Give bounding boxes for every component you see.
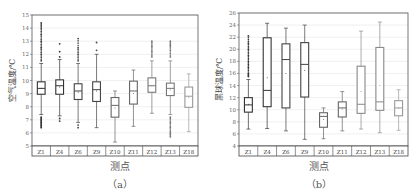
outlier-point bbox=[40, 55, 42, 57]
outlier-point bbox=[40, 39, 42, 41]
outlier-point bbox=[77, 40, 79, 42]
mean-marker bbox=[361, 91, 362, 92]
outlier-point bbox=[248, 58, 250, 60]
outlier-point bbox=[248, 39, 250, 41]
outlier-point bbox=[77, 58, 79, 60]
y-tick-label: 12 bbox=[229, 95, 236, 101]
outlier-point bbox=[40, 44, 42, 46]
outlier-point bbox=[40, 58, 42, 60]
y-tick-label: 10 bbox=[22, 78, 29, 84]
outlier-point bbox=[247, 54, 249, 56]
outlier-point bbox=[59, 56, 61, 58]
outlier-point bbox=[248, 65, 250, 67]
outlier-point bbox=[170, 46, 172, 48]
mean-marker bbox=[115, 108, 116, 109]
mean-marker bbox=[96, 90, 97, 91]
category-label: Z1 bbox=[245, 149, 252, 155]
outlier-point bbox=[248, 73, 250, 75]
y-tick-label: 14 bbox=[229, 83, 236, 89]
y-tick-label: 13 bbox=[22, 38, 29, 44]
outlier-point bbox=[151, 47, 153, 49]
mean-marker bbox=[379, 85, 380, 86]
outlier-point bbox=[59, 118, 61, 120]
outlier-point bbox=[77, 42, 79, 44]
outlier-point bbox=[77, 60, 79, 62]
outlier-point bbox=[248, 50, 250, 52]
outlier-point bbox=[77, 53, 79, 55]
mean-marker bbox=[323, 119, 324, 120]
outlier-point bbox=[170, 41, 172, 43]
outlier-point bbox=[77, 124, 79, 126]
y-tick-label: 6 bbox=[233, 131, 237, 137]
outlier-point bbox=[40, 40, 42, 42]
outlier-point bbox=[40, 34, 42, 36]
outlier-point bbox=[40, 47, 42, 49]
outlier-point bbox=[247, 67, 249, 69]
y-tick-label: 26 bbox=[229, 10, 236, 16]
mean-marker bbox=[151, 85, 152, 86]
outlier-point bbox=[248, 56, 250, 58]
outlier-point bbox=[77, 47, 79, 49]
iqr-box bbox=[74, 84, 82, 100]
panel-b-caption: （b） bbox=[284, 176, 354, 191]
iqr-box bbox=[301, 43, 309, 97]
category-label: Z4 bbox=[264, 149, 272, 155]
category-label: Z4 bbox=[56, 149, 64, 155]
outlier-point bbox=[248, 53, 250, 55]
outlier-point bbox=[40, 126, 42, 128]
mean-marker bbox=[59, 87, 60, 88]
y-tick-label: 14 bbox=[22, 25, 29, 31]
outlier-point bbox=[40, 35, 42, 37]
category-label: Z10 bbox=[318, 149, 329, 155]
y-tick-label: 20 bbox=[229, 46, 236, 52]
outlier-point bbox=[77, 49, 79, 51]
category-label: Z9 bbox=[301, 149, 309, 155]
outlier-point bbox=[151, 52, 153, 54]
outlier-point bbox=[40, 29, 42, 31]
outlier-point bbox=[59, 120, 61, 122]
outlier-point bbox=[247, 48, 249, 50]
category-label: Z11 bbox=[337, 149, 348, 155]
outlier-point bbox=[40, 60, 42, 62]
y-tick-label: 8 bbox=[26, 104, 30, 110]
y-tick-label: 11 bbox=[22, 64, 29, 70]
outlier-point bbox=[248, 59, 250, 61]
outlier-point bbox=[247, 60, 249, 62]
outlier-point bbox=[248, 62, 250, 64]
outlier-point bbox=[77, 45, 79, 47]
outlier-point bbox=[248, 70, 250, 72]
outlier-point bbox=[40, 57, 42, 59]
y-tick-label: 24 bbox=[229, 22, 236, 28]
iqr-box bbox=[320, 113, 328, 128]
outlier-point bbox=[247, 42, 249, 44]
mean-marker bbox=[41, 88, 42, 89]
outlier-point bbox=[170, 54, 172, 56]
y-tick-label: 5 bbox=[26, 143, 30, 149]
outlier-point bbox=[248, 45, 250, 47]
outlier-point bbox=[77, 55, 79, 57]
outlier-point bbox=[248, 44, 250, 46]
outlier-point bbox=[96, 42, 98, 44]
outlier-point bbox=[77, 57, 79, 59]
iqr-box bbox=[148, 78, 156, 92]
outlier-point bbox=[40, 31, 42, 33]
y-tick-label: 16 bbox=[229, 70, 236, 76]
category-label: Z11 bbox=[128, 149, 139, 155]
y-tick-label: 6 bbox=[26, 130, 30, 136]
category-label: Z6 bbox=[282, 149, 290, 155]
category-label: Z13 bbox=[165, 149, 176, 155]
y-tick-label: 18 bbox=[229, 58, 236, 64]
outlier-point bbox=[170, 53, 172, 55]
outlier-point bbox=[40, 50, 42, 52]
outlier-point bbox=[40, 42, 42, 44]
iqr-box bbox=[93, 82, 101, 102]
iqr-box bbox=[376, 47, 384, 110]
y-tick-label: 4 bbox=[233, 143, 237, 149]
outlier-point bbox=[248, 41, 250, 43]
box-plot-figure: 56789101112131415Z1Z4Z6Z9Z10Z11Z12Z13Z18… bbox=[0, 0, 414, 193]
y-tick-label: 7 bbox=[26, 117, 30, 123]
outlier-point bbox=[59, 51, 61, 53]
mean-marker bbox=[188, 97, 189, 98]
y-tick-label: 9 bbox=[26, 91, 30, 97]
outlier-point bbox=[248, 51, 250, 53]
